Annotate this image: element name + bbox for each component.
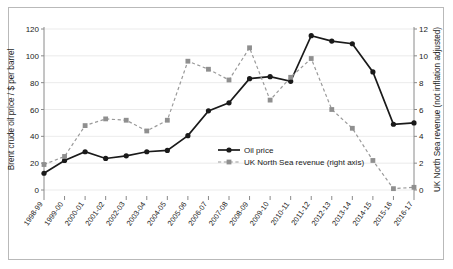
data-point-oil-price[interactable] — [226, 100, 231, 105]
legend-marker-north-sea-revenue — [227, 160, 232, 165]
right-axis-tick-label: 2 — [419, 159, 424, 168]
data-point-oil-price[interactable] — [370, 69, 375, 74]
left-axis-tick-label: 0 — [35, 186, 40, 195]
left-axis-tick-label: 100 — [26, 52, 40, 61]
data-point-oil-price[interactable] — [309, 33, 314, 38]
data-point-north-sea-revenue[interactable] — [185, 59, 190, 64]
x-axis-tick-label: 2005-06 — [166, 200, 189, 227]
x-axis-tick-label: 2011-12 — [289, 200, 312, 227]
x-axis-tick-label: 2003-04 — [124, 200, 147, 227]
data-point-north-sea-revenue[interactable] — [42, 162, 47, 167]
data-point-north-sea-revenue[interactable] — [165, 118, 170, 123]
series-line-north-sea-revenue — [44, 48, 414, 189]
x-axis-tick-label: 2008-09 — [227, 200, 250, 227]
data-point-north-sea-revenue[interactable] — [103, 116, 108, 121]
data-point-oil-price[interactable] — [83, 149, 88, 154]
data-point-north-sea-revenue[interactable] — [62, 154, 67, 159]
right-axis-title: UK North Sea revenue (not inflation adju… — [433, 27, 442, 192]
left-axis-tick-label: 60 — [30, 106, 39, 115]
data-point-north-sea-revenue[interactable] — [309, 56, 314, 61]
data-point-oil-price[interactable] — [247, 76, 252, 81]
x-axis-tick-label: 1999-00 — [42, 200, 65, 227]
x-axis-tick-label: 1998-99 — [22, 200, 45, 227]
x-axis-tick-label: 2014-15 — [351, 200, 374, 227]
x-axis-tick-label: 2013-14 — [330, 200, 353, 227]
data-point-north-sea-revenue[interactable] — [124, 118, 129, 123]
right-axis-tick-label: 12 — [419, 25, 428, 34]
data-point-north-sea-revenue[interactable] — [206, 67, 211, 72]
x-axis-tick-label: 2004-05 — [145, 200, 168, 227]
legend-label-north-sea-revenue: UK North Sea revenue (right axis) — [244, 158, 364, 167]
data-point-oil-price[interactable] — [206, 108, 211, 113]
data-point-oil-price[interactable] — [185, 133, 190, 138]
right-axis-tick-label: 8 — [419, 79, 424, 88]
left-axis-title: Brent crude oil price / $ per barrel — [7, 49, 16, 171]
left-axis-tick-label: 20 — [30, 159, 39, 168]
data-point-oil-price[interactable] — [124, 153, 129, 158]
data-point-north-sea-revenue[interactable] — [83, 123, 88, 128]
x-axis-tick-label: 2001-02 — [83, 200, 106, 227]
data-point-north-sea-revenue[interactable] — [227, 78, 232, 83]
data-point-oil-price[interactable] — [411, 120, 416, 125]
data-point-north-sea-revenue[interactable] — [268, 98, 273, 103]
right-axis-tick-label: 4 — [419, 132, 424, 141]
right-axis-tick-label: 10 — [419, 52, 428, 61]
left-axis-tick-label: 40 — [30, 132, 39, 141]
data-point-oil-price[interactable] — [329, 38, 334, 43]
data-point-north-sea-revenue[interactable] — [329, 107, 334, 112]
x-axis-tick-label: 2002-03 — [104, 200, 127, 227]
chart-container: 020406080100120Brent crude oil price / $… — [0, 0, 453, 269]
x-axis-tick-label: 2006-07 — [186, 200, 209, 227]
data-point-oil-price[interactable] — [144, 149, 149, 154]
x-axis-tick-label: 2010-11 — [269, 200, 292, 227]
data-point-oil-price[interactable] — [350, 41, 355, 46]
data-point-north-sea-revenue[interactable] — [288, 75, 293, 80]
data-point-oil-price[interactable] — [165, 148, 170, 153]
legend-marker-oil-price — [226, 147, 231, 152]
x-axis-tick-label: 2009-10 — [248, 200, 271, 227]
data-point-oil-price[interactable] — [41, 171, 46, 176]
data-point-north-sea-revenue[interactable] — [144, 129, 149, 134]
x-axis-tick-label: 2016-17 — [392, 200, 415, 227]
data-point-oil-price[interactable] — [391, 122, 396, 127]
chart-plot: 020406080100120Brent crude oil price / $… — [0, 0, 453, 269]
x-axis-tick-label: 2012-13 — [309, 200, 332, 227]
x-axis-tick-label: 2000-01 — [63, 200, 86, 227]
data-point-north-sea-revenue[interactable] — [391, 186, 396, 191]
left-axis-tick-label: 120 — [26, 25, 40, 34]
right-axis-tick-label: 6 — [419, 106, 424, 115]
left-axis-tick-label: 80 — [30, 79, 39, 88]
data-point-oil-price[interactable] — [103, 156, 108, 161]
data-point-north-sea-revenue[interactable] — [370, 158, 375, 163]
x-axis-tick-label: 2007-08 — [207, 200, 230, 227]
data-point-north-sea-revenue[interactable] — [412, 185, 417, 190]
data-point-north-sea-revenue[interactable] — [350, 126, 355, 131]
x-axis-tick-label: 2015-16 — [371, 200, 394, 227]
data-point-oil-price[interactable] — [268, 74, 273, 79]
legend-label-oil-price: Oil price — [244, 146, 274, 155]
right-axis-tick-label: 0 — [419, 186, 424, 195]
data-point-north-sea-revenue[interactable] — [247, 45, 252, 50]
